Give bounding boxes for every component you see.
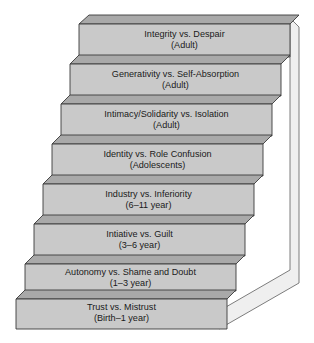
step-3-face bbox=[34, 224, 245, 256]
step-1-top-surface bbox=[16, 290, 236, 299]
step-1-face bbox=[16, 299, 227, 329]
step-7-top-surface bbox=[70, 55, 290, 64]
step-6-top-surface bbox=[61, 95, 281, 104]
step-4-face bbox=[43, 184, 254, 216]
step-5-face bbox=[52, 144, 263, 176]
step-2-face bbox=[25, 264, 236, 291]
diagram-canvas: Integrity vs. Despair (Adult) Generativi… bbox=[0, 0, 314, 343]
step-2-top-surface bbox=[25, 255, 245, 264]
step-3-top-surface bbox=[34, 215, 254, 224]
step-5-top-surface bbox=[52, 135, 272, 144]
step-7-face bbox=[70, 64, 281, 96]
staircase-figure bbox=[0, 0, 314, 343]
step-4-top-surface bbox=[43, 175, 263, 184]
step-8-face bbox=[79, 24, 290, 57]
step-8-top-surface bbox=[79, 15, 299, 24]
step-6-face bbox=[61, 104, 272, 136]
